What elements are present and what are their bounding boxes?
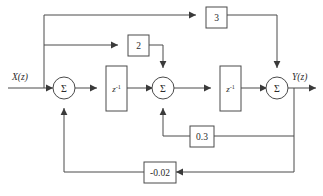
summer-3-symbol: Σ xyxy=(274,83,280,94)
arrow-gainm002-into-sum1 xyxy=(61,108,68,115)
arrow-into-delay1 xyxy=(90,85,97,92)
arrow-output-end xyxy=(309,85,316,92)
gain-block-3[interactable]: 3 xyxy=(206,7,227,28)
arrow-into-gain3 xyxy=(189,12,196,19)
arrow-gain2-into-sum2 xyxy=(160,61,167,68)
signal-flow-diagram: 3 2 0.3 -0.02 z-1 z-1 xyxy=(0,0,323,196)
arrow-into-gain2 xyxy=(111,42,118,49)
arrow-gain3-into-sum3 xyxy=(274,61,281,68)
gain-2-label: 2 xyxy=(136,41,141,51)
gain-block-0.3[interactable]: 0.3 xyxy=(190,126,214,147)
gain-0p3-label: 0.3 xyxy=(196,132,208,142)
gain-3-label: 3 xyxy=(214,13,219,23)
arrow-into-delay2 xyxy=(204,85,211,92)
arrow-gain03-into-sum2 xyxy=(160,108,167,115)
summer-1-symbol: Σ xyxy=(61,83,67,94)
delay1-exponent: -1 xyxy=(116,82,121,89)
summer-2-symbol: Σ xyxy=(160,83,166,94)
summer-3[interactable]: Σ xyxy=(266,77,288,99)
summer-2[interactable]: Σ xyxy=(152,77,174,99)
arrow-into-gainm002 xyxy=(176,169,183,176)
diagram-canvas: 3 2 0.3 -0.02 z-1 z-1 xyxy=(0,0,323,196)
delay2-exponent: -1 xyxy=(230,82,235,89)
arrow-into-sum1 xyxy=(46,85,53,92)
gain-block-2[interactable]: 2 xyxy=(128,35,149,56)
summer-1[interactable]: Σ xyxy=(53,77,75,99)
gain-blocks: 3 2 0.3 -0.02 xyxy=(128,7,227,183)
gain-block--0.02[interactable]: -0.02 xyxy=(144,162,176,183)
gain-m0p02-label: -0.02 xyxy=(150,168,170,178)
input-label: X(z) xyxy=(11,72,28,83)
output-label: Y(z) xyxy=(292,72,307,83)
delay-block-2[interactable]: z-1 xyxy=(220,66,241,111)
delay-block-1[interactable]: z-1 xyxy=(106,66,127,111)
